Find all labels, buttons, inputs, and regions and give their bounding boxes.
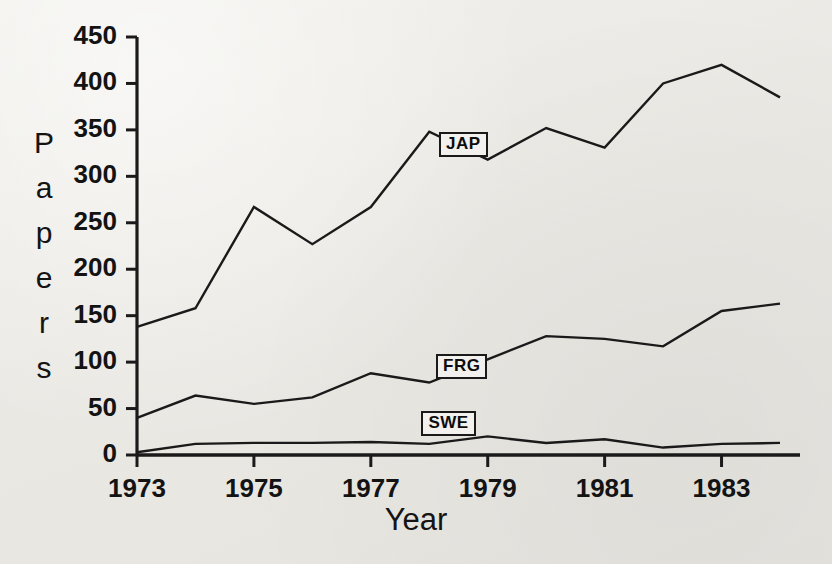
y-axis-tick-label: 200 xyxy=(7,252,117,283)
y-axis-tick-label: 350 xyxy=(7,113,117,144)
y-axis-tick-label: 50 xyxy=(7,392,117,423)
y-axis-ticks xyxy=(126,37,137,455)
series-label-swe: SWE xyxy=(421,411,475,436)
y-axis-tick-label: 100 xyxy=(7,345,117,376)
y-axis-tick-label: 450 xyxy=(7,20,117,51)
y-axis-tick-label: 400 xyxy=(7,66,117,97)
x-axis-tick-label: 1977 xyxy=(311,473,431,504)
series-lines xyxy=(137,65,780,452)
y-axis-tick-label: 300 xyxy=(7,159,117,190)
x-axis-title: Year xyxy=(0,502,832,538)
series-line-jap xyxy=(137,65,780,327)
chart-figure: Papers 050100150200250300350400450 19731… xyxy=(0,0,832,564)
series-label-jap: JAP xyxy=(439,132,488,157)
x-axis-tick-label: 1981 xyxy=(545,473,665,504)
x-axis-tick-label: 1975 xyxy=(194,473,314,504)
y-axis-tick-label: 250 xyxy=(7,206,117,237)
y-axis-tick-label: 0 xyxy=(7,438,117,469)
y-axis-tick-label: 150 xyxy=(7,299,117,330)
x-axis-tick-label: 1979 xyxy=(428,473,548,504)
series-line-swe xyxy=(137,436,780,452)
x-axis-tick-label: 1983 xyxy=(662,473,782,504)
series-label-frg: FRG xyxy=(436,354,487,379)
x-axis-tick-label: 1973 xyxy=(77,473,197,504)
axis-lines xyxy=(137,37,800,455)
